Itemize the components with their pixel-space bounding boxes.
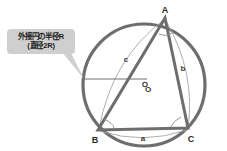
side-label-c: c: [124, 55, 129, 64]
side-label-b: b: [181, 64, 186, 73]
center-label-o: O: [145, 85, 151, 94]
side-label-a: a: [141, 134, 146, 143]
callout-line-2: (直径2R): [9, 41, 73, 50]
callout-radius-note: 外接円の半径R (直径2R): [7, 29, 75, 54]
callout-line-1: 外接円の半径R: [9, 32, 73, 41]
vertex-label-c: C: [188, 134, 195, 144]
angle-arc-c: [171, 117, 181, 127]
vertex-label-b: B: [92, 135, 99, 145]
vertex-label-a: A: [162, 5, 169, 15]
geometry-figure: A B C O a b c: [0, 0, 227, 151]
diagram-canvas: A B C O a b c 外接円の半径R (直径2R): [0, 0, 227, 151]
